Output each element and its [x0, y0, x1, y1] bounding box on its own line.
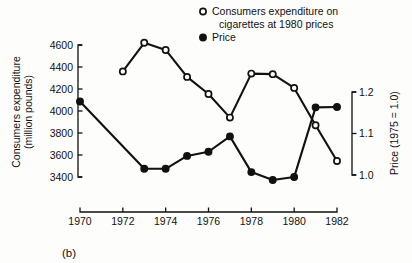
data-point-open-circle: [184, 74, 190, 80]
left-axis-tick-label: 4000: [50, 105, 74, 117]
right-axis-title: Price (1975 = 1.0): [388, 91, 400, 175]
data-point-open-circle: [334, 158, 340, 164]
left-axis-title-line1: Consumers expenditure: [10, 56, 22, 168]
legend-label-expenditure-line1: Consumers expenditure on: [212, 5, 338, 17]
data-point-open-circle: [227, 115, 233, 121]
right-axis-tick-label: 1.2: [359, 86, 374, 98]
chart-legend: Consumers expenditure oncigarettes at 19…: [200, 5, 338, 43]
legend-label-price: Price: [212, 31, 236, 43]
data-point-open-circle: [120, 68, 126, 74]
right-axis-tick-label: 1.1: [359, 127, 374, 139]
series-expenditure: [120, 40, 340, 164]
data-point-filled-circle: [312, 104, 318, 110]
legend-label-expenditure-line2: cigarettes at 1980 prices: [219, 18, 333, 30]
x-axis-tick-label: 1978: [240, 215, 264, 227]
data-point-filled-circle: [184, 153, 190, 159]
right-axis-tick-label: 1.0: [359, 169, 374, 181]
left-axis-tick-label: 4200: [50, 83, 74, 95]
right-axis: 1.01.11.2Price (1975 = 1.0): [352, 86, 400, 181]
left-axis-tick-label: 3800: [50, 127, 74, 139]
legend-marker-open-circle: [200, 8, 206, 14]
data-point-filled-circle: [334, 104, 340, 110]
data-point-open-circle: [141, 40, 147, 46]
data-point-filled-circle: [141, 166, 147, 172]
data-point-filled-circle: [248, 169, 254, 175]
left-axis-tick-label: 4600: [50, 39, 74, 51]
left-axis-tick-label: 3600: [50, 149, 74, 161]
cigarette-expenditure-price-chart: Consumers expenditure oncigarettes at 19…: [0, 0, 412, 263]
x-axis-tick-label: 1982: [325, 215, 349, 227]
data-point-open-circle: [312, 122, 318, 128]
data-point-open-circle: [205, 91, 211, 97]
data-point-filled-circle: [77, 98, 83, 104]
left-axis-tick-label: 3400: [50, 171, 74, 183]
left-axis-tick-label: 4400: [50, 61, 74, 73]
left-axis: 3400360038004000420044004600Consumers ex…: [10, 39, 83, 183]
x-axis-tick-label: 1972: [111, 215, 135, 227]
data-point-filled-circle: [291, 174, 297, 180]
x-axis-tick-label: 1974: [154, 215, 178, 227]
series-polyline: [80, 102, 337, 180]
left-axis-title-line2: (million pounds): [22, 75, 34, 149]
data-point-filled-circle: [205, 149, 211, 155]
x-axis: 1970197219741976197819801982: [68, 208, 349, 228]
x-axis-tick-label: 1970: [68, 215, 92, 227]
data-point-filled-circle: [270, 177, 276, 183]
chart-series-layer: [77, 40, 340, 183]
data-point-open-circle: [248, 71, 254, 77]
series-price: [77, 98, 340, 183]
data-point-filled-circle: [162, 166, 168, 172]
chart-figure: Consumers expenditure oncigarettes at 19…: [0, 0, 412, 263]
data-point-open-circle: [270, 71, 276, 77]
x-axis-tick-label: 1980: [282, 215, 306, 227]
data-point-open-circle: [291, 85, 297, 91]
legend-marker-filled-circle: [200, 34, 206, 40]
figure-caption: (b): [62, 247, 76, 259]
data-point-filled-circle: [227, 133, 233, 139]
x-axis-tick-label: 1976: [197, 215, 221, 227]
data-point-open-circle: [163, 47, 169, 53]
